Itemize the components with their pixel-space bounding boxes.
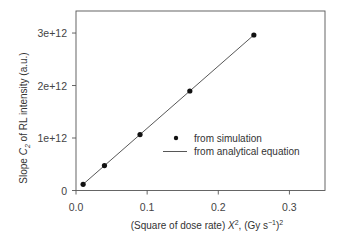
x-axis-label: (Square of dose rate) X2, (Gy s−1)2 [131, 219, 284, 231]
analytical-line [83, 35, 254, 184]
legend: from simulation from analytical equation [163, 133, 300, 158]
y-tick-label: 3e+12 [38, 27, 68, 39]
data-point [137, 132, 142, 137]
plot-frame [76, 11, 325, 191]
y-tick-label: 2e+12 [38, 80, 68, 92]
x-tick-label: 0.3 [282, 201, 297, 213]
legend-label-analytical: from analytical equation [194, 146, 300, 157]
legend-label-simulation: from simulation [194, 133, 262, 144]
data-point [102, 163, 107, 168]
x-tick-label: 0.2 [211, 201, 226, 213]
x-tick-label: 0.1 [140, 201, 155, 213]
y-tick-label: 1e+12 [38, 132, 68, 144]
y-axis-ticks: 01e+122e+123e+12 [38, 27, 77, 196]
data-point [81, 182, 86, 187]
plot-border [76, 11, 325, 191]
data-point [187, 88, 192, 93]
legend-dot-icon [174, 136, 178, 140]
x-tick-label: 0.0 [69, 201, 84, 213]
x-axis-ticks: 0.00.10.20.3 [69, 191, 297, 213]
data-point [251, 32, 256, 37]
analytical-line-series [83, 35, 254, 184]
y-axis-label: Slope C2 of RL intensity (a.u.) [18, 52, 31, 183]
y-tick-label: 0 [61, 185, 67, 197]
chart: 0.00.10.20.3 01e+122e+123e+12 from simul… [0, 0, 342, 243]
